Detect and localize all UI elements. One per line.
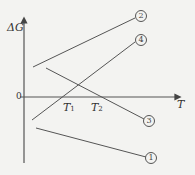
origin-label: 0 [16, 92, 22, 101]
delta-g-vs-temperature-diagram: ΔG T 0 T1 T2 2 4 3 1 [0, 0, 195, 175]
line-4 [32, 42, 135, 120]
y-axis-label: ΔG [7, 22, 24, 33]
line-1 [36, 128, 146, 157]
line-1-marker: 1 [145, 152, 157, 164]
line-4-marker: 4 [135, 34, 147, 46]
line-3-marker: 3 [143, 115, 155, 127]
t2-label: T2 [91, 102, 103, 113]
t1-label: T1 [63, 102, 75, 113]
x-axis-label: T [177, 99, 184, 110]
line-2 [33, 18, 135, 67]
diagram-lines [0, 0, 195, 175]
line-2-marker: 2 [135, 10, 147, 22]
